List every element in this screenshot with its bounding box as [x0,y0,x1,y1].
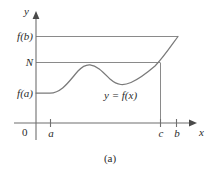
y-label-n: N [0,57,33,68]
y-label-fb: f(b) [0,31,33,42]
y-axis-label: y [24,6,29,17]
origin-label: 0 [22,127,28,138]
curve-equation-label: y = f(x) [104,90,137,101]
x-tick-label-a: a [44,128,58,139]
y-axis-arrow-icon [33,11,40,19]
y-label-fa: f(a) [0,88,33,99]
function-curve [36,37,178,94]
figure-caption: (a) [0,152,220,164]
x-axis-arrow-icon [189,120,197,127]
x-axis-label: x [199,127,204,138]
x-tick-label-b: b [170,128,184,139]
figure-container: f(b) N f(a) y x 0 a c b y = f(x) (a) [0,0,220,177]
x-tick-label-c: c [154,128,168,139]
